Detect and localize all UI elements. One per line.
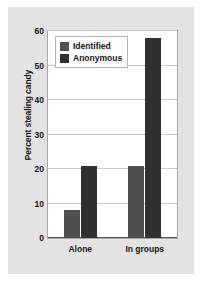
legend-item-anonymous: Anonymous <box>60 52 122 64</box>
y-axis-title: Percent stealing candy <box>23 50 33 180</box>
y-axis-tick-30: 30 <box>35 130 44 140</box>
legend-label-identified: Identified <box>73 41 111 51</box>
anonymous-swatch <box>60 54 69 63</box>
chart-panel: Percent stealing candy 0102030405060 Alo… <box>8 7 194 274</box>
plot-area: 0102030405060 AloneIn groups IdentifiedA… <box>47 30 178 239</box>
y-axis-tick-50: 50 <box>35 61 44 71</box>
bar-chart-figure: Percent stealing candy 0102030405060 Alo… <box>8 7 194 274</box>
y-axis-tick-40: 40 <box>35 95 44 105</box>
identified-swatch <box>60 42 69 51</box>
chart-page: Percent stealing candy 0102030405060 Alo… <box>0 0 202 281</box>
y-axis-tick-0: 0 <box>39 233 44 243</box>
plot-inner: 0102030405060 AloneIn groups IdentifiedA… <box>48 31 177 238</box>
x-axis-tick-alone: Alone <box>68 244 92 254</box>
y-axis-tick-10: 10 <box>35 199 44 209</box>
bar-alone-anonymous <box>81 166 97 238</box>
legend-item-identified: Identified <box>60 40 122 52</box>
bar-alone-identified <box>64 210 80 238</box>
x-axis-tick-in-groups: In groups <box>125 244 164 254</box>
legend-label-anonymous: Anonymous <box>73 53 122 63</box>
gridline-60 <box>48 30 177 31</box>
bar-in-groups-anonymous <box>145 38 161 238</box>
bar-in-groups-identified <box>128 166 144 238</box>
y-axis-tick-20: 20 <box>35 164 44 174</box>
chart-legend: IdentifiedAnonymous <box>55 36 128 68</box>
y-axis-tick-60: 60 <box>35 26 44 36</box>
